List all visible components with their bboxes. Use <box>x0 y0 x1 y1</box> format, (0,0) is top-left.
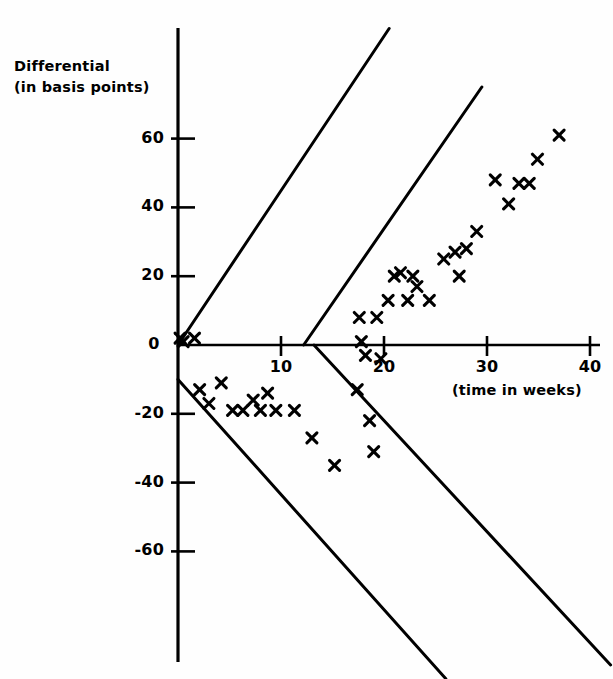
data-point-marker <box>255 405 265 415</box>
data-point-marker <box>439 254 449 264</box>
data-point-marker <box>412 282 422 292</box>
data-point-marker <box>189 333 199 343</box>
boundary-line <box>178 379 446 678</box>
data-point-marker <box>263 388 273 398</box>
data-point-group <box>175 130 564 470</box>
x-tick-label: 20 <box>361 357 407 376</box>
data-point-marker <box>472 226 482 236</box>
scatter-plot-canvas <box>0 0 613 679</box>
y-tick-label: -20 <box>108 403 164 422</box>
x-tick-label: 40 <box>567 357 613 376</box>
data-point-marker <box>216 378 226 388</box>
data-point-marker <box>238 405 248 415</box>
x-tick-label: 10 <box>258 357 304 376</box>
data-point-marker <box>514 178 524 188</box>
data-point-marker <box>289 405 299 415</box>
data-point-marker <box>372 312 382 322</box>
data-point-marker <box>307 433 317 443</box>
y-axis-title-line2: (in basis points) <box>14 77 150 98</box>
y-tick-label: 40 <box>108 196 164 215</box>
y-tick-label: -40 <box>108 472 164 491</box>
data-point-marker <box>271 405 281 415</box>
data-point-marker <box>524 178 534 188</box>
chart-figure: Differential (in basis points) (time in … <box>0 0 613 679</box>
data-point-marker <box>383 295 393 305</box>
data-point-marker <box>424 295 434 305</box>
y-tick-label: 60 <box>108 128 164 147</box>
boundary-line <box>178 29 389 345</box>
data-point-marker <box>369 447 379 457</box>
data-point-marker <box>204 398 214 408</box>
data-point-marker <box>408 271 418 281</box>
data-point-marker <box>248 395 258 405</box>
y-tick-label: -60 <box>108 540 164 559</box>
data-point-marker <box>195 385 205 395</box>
data-point-marker <box>228 405 238 415</box>
data-point-marker <box>554 130 564 140</box>
data-point-marker <box>365 416 375 426</box>
data-point-marker <box>504 199 514 209</box>
data-point-marker <box>403 295 413 305</box>
axis-group <box>178 28 600 662</box>
data-point-marker <box>354 312 364 322</box>
data-point-marker <box>454 271 464 281</box>
boundary-line-group <box>178 29 611 679</box>
y-axis-title-line1: Differential <box>14 56 150 77</box>
data-point-marker <box>461 244 471 254</box>
data-point-marker <box>532 154 542 164</box>
y-axis-title: Differential (in basis points) <box>14 56 150 98</box>
y-tick-label: 20 <box>108 265 164 284</box>
x-axis-title: (time in weeks) <box>452 382 582 398</box>
data-point-marker <box>450 247 460 257</box>
data-point-marker <box>330 460 340 470</box>
x-tick-label: 0 <box>131 334 177 353</box>
data-point-marker <box>490 175 500 185</box>
x-tick-label: 30 <box>464 357 510 376</box>
